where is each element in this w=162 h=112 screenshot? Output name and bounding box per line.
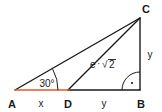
side-label-x: x [39,98,44,109]
segment-AC [15,18,140,90]
vertex-label-D: D [64,98,72,110]
side-label-y-vertical: y [148,49,153,60]
angle-label-30: 30° [39,78,54,89]
vertex-label-C: C [142,3,150,15]
sqrt-icon: √ [102,59,108,70]
geometry-figure: A D B C x y y 30° e · √ 2 [0,0,162,112]
hypotenuse-label-base: e [90,59,96,70]
right-angle-dot-at-B [131,82,133,84]
geometry-diagram: A D B C x y y 30° e · √ 2 [0,0,162,112]
right-angle-arc-at-B [122,72,140,90]
hypotenuse-label-group: e · √ 2 [90,58,116,70]
hypotenuse-label-radicand: 2 [109,59,115,70]
vertex-label-B: B [137,98,145,110]
hypotenuse-label-operator: · [97,58,100,69]
side-label-y-base: y [102,98,107,109]
vertex-label-A: A [8,98,16,110]
